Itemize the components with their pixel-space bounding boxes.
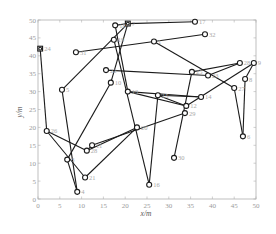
route-edge (154, 34, 205, 41)
node-marker (65, 157, 70, 162)
node-marker (243, 77, 248, 82)
x-tick-label: 20 (122, 202, 130, 210)
node-label: 12 (190, 102, 197, 109)
node-marker (184, 103, 189, 108)
x-tick-label: 15 (100, 202, 108, 210)
y-tick-label: 25 (29, 106, 37, 114)
node-marker (189, 69, 194, 74)
node-marker (151, 39, 156, 44)
node-label: 26 (51, 127, 58, 134)
node-label: 13 (132, 88, 139, 95)
node-marker (111, 37, 116, 42)
y-tick-label: 5 (33, 178, 37, 186)
route-edge (67, 160, 77, 192)
x-tick-label: 0 (36, 202, 40, 210)
node-label: 28 (244, 59, 251, 66)
node-marker (147, 182, 152, 187)
node-marker (59, 87, 64, 92)
node-label: 3 (71, 156, 74, 163)
route-edge (128, 22, 195, 24)
node-marker (202, 32, 207, 37)
node-marker (251, 60, 256, 65)
node-marker (240, 134, 245, 139)
node-label: 5 (66, 86, 69, 93)
node-marker (134, 125, 139, 130)
node-labels: 1345678910111213141516171819202122232425… (44, 18, 261, 195)
node-label: 16 (153, 181, 160, 188)
node-label: 20 (141, 124, 148, 131)
node-marker (192, 19, 197, 24)
route-edges (40, 22, 254, 192)
node-marker (75, 189, 80, 194)
y-tick-label: 50 (29, 17, 37, 25)
x-tick-label: 45 (231, 202, 239, 210)
node-marker (83, 175, 88, 180)
node-label: 29 (189, 110, 196, 117)
node-marker (44, 128, 49, 133)
node-label: 32 (209, 31, 216, 38)
node-marker (125, 89, 130, 94)
node-label: 15 (162, 92, 169, 99)
node-marker (232, 86, 237, 91)
node-label: 1 (158, 38, 161, 45)
route-edge (62, 90, 77, 192)
node-marker (172, 155, 177, 160)
node-marker (237, 60, 242, 65)
x-tick-label: 5 (58, 202, 62, 210)
y-axis-label: y/m (15, 106, 24, 118)
route-chart: 0510152025303540455005101520253035404550… (0, 0, 276, 234)
node-label: 18 (119, 22, 126, 29)
node-label: 28 (91, 147, 98, 154)
x-axis-label: x/m (140, 209, 152, 218)
node-marker (108, 80, 113, 85)
node-label: 19 (118, 36, 125, 43)
node-label: 27 (238, 85, 245, 92)
route-edge (234, 88, 243, 136)
node-label: 14 (205, 93, 212, 100)
x-tick-label: 10 (78, 202, 86, 210)
node-marker (199, 94, 204, 99)
node-label: 17 (199, 18, 206, 25)
y-tick-label: 30 (29, 88, 37, 96)
route-edge (154, 41, 234, 88)
y-tick-label: 45 (29, 34, 37, 42)
node-label: 21 (89, 174, 96, 181)
node-label: 25 (196, 68, 203, 75)
node-marker (182, 111, 187, 116)
x-tick-label: 40 (209, 202, 217, 210)
y-tick-label: 40 (29, 52, 37, 60)
route-edge (114, 40, 149, 185)
y-tick-label: 35 (29, 70, 37, 78)
y-tick-label: 10 (29, 160, 37, 168)
node-label: 22 (110, 67, 117, 74)
node-label: 4 (81, 188, 85, 195)
route-edge (40, 49, 47, 131)
depot-marker-inner (39, 47, 42, 50)
node-marker (84, 148, 89, 153)
node-label: 10 (115, 79, 122, 86)
node-marker (155, 93, 160, 98)
node-label: 31 (80, 49, 87, 56)
node-label: 24 (44, 45, 51, 52)
node-label: 6 (247, 133, 251, 140)
node-marker (104, 68, 109, 73)
node-label: 23 (212, 72, 219, 79)
node-marker (206, 73, 211, 78)
node-marker (113, 23, 118, 28)
depot-marker-inner (126, 22, 129, 25)
y-tick-label: 15 (29, 142, 37, 150)
x-tick-label: 35 (187, 202, 195, 210)
node-label: 9 (258, 59, 261, 66)
route-nodes (38, 19, 257, 194)
axis-ticks: 0510152025303540455005101520253035404550 (29, 17, 260, 211)
node-label: 8 (249, 76, 252, 83)
route-edge (149, 95, 158, 184)
node-label: 30 (178, 154, 185, 161)
x-tick-label: 30 (165, 202, 173, 210)
node-marker (73, 50, 78, 55)
x-tick-label: 50 (253, 202, 261, 210)
y-tick-label: 0 (33, 196, 37, 204)
y-tick-label: 20 (29, 124, 37, 132)
